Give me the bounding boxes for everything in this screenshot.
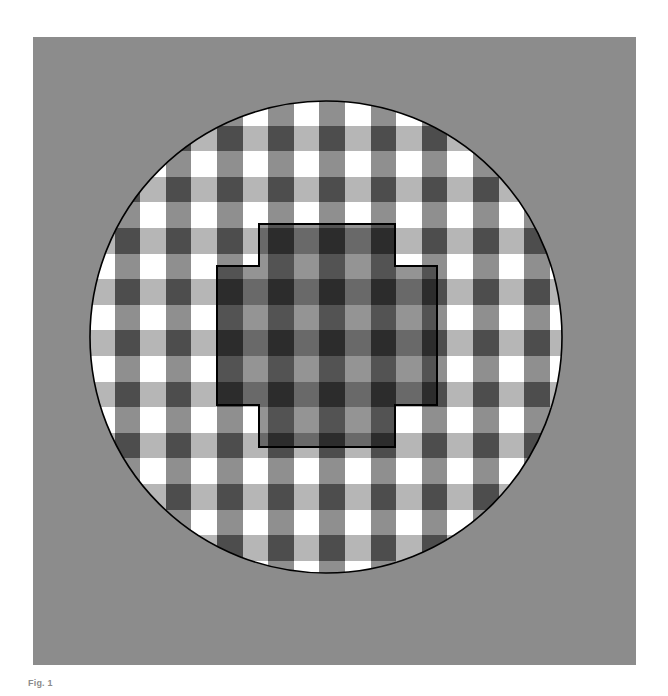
- checker-cell: [191, 202, 217, 228]
- checker-cell: [166, 330, 192, 356]
- checker-cell: [243, 177, 269, 203]
- checker-cell: [319, 458, 345, 484]
- checker-cell: [243, 535, 269, 561]
- checker-cell: [319, 100, 345, 126]
- checker-cell: [499, 228, 525, 254]
- checker-cell: [140, 279, 166, 305]
- checker-cell: [422, 433, 448, 459]
- checker-cell: [447, 433, 473, 459]
- checker-cell: [243, 126, 269, 152]
- checker-cell: [524, 279, 550, 305]
- checker-cell: [396, 151, 422, 177]
- checker-cell: [396, 484, 422, 510]
- checker-cell: [473, 177, 499, 203]
- checker-cell: [115, 330, 141, 356]
- checker-cell: [140, 382, 166, 408]
- checker-cell: [396, 202, 422, 228]
- checker-cell: [217, 177, 243, 203]
- checker-cell: [166, 407, 192, 433]
- checker-cell: [524, 305, 550, 331]
- checker-cell: [473, 382, 499, 408]
- checker-cell: [345, 535, 371, 561]
- checker-cell: [422, 177, 448, 203]
- checker-cell: [499, 202, 525, 228]
- checker-cell: [166, 254, 192, 280]
- checker-cell: [345, 510, 371, 536]
- checker-cell: [191, 254, 217, 280]
- checker-cell: [396, 228, 422, 254]
- checker-cell: [268, 177, 294, 203]
- checker-cell: [345, 151, 371, 177]
- checker-cell: [319, 510, 345, 536]
- checker-cell: [243, 484, 269, 510]
- checker-cell: [268, 510, 294, 536]
- checker-cell: [371, 484, 397, 510]
- checker-cell: [217, 458, 243, 484]
- checker-cell: [319, 151, 345, 177]
- checker-cell: [166, 228, 192, 254]
- checker-cell: [191, 510, 217, 536]
- checker-cell: [524, 254, 550, 280]
- checker-cell: [473, 202, 499, 228]
- checker-cell: [499, 382, 525, 408]
- checker-cell: [217, 151, 243, 177]
- checker-cell: [499, 407, 525, 433]
- checker-cell: [319, 126, 345, 152]
- checker-cell: [473, 228, 499, 254]
- checker-cell: [217, 484, 243, 510]
- checker-cell: [447, 484, 473, 510]
- checker-cell: [140, 330, 166, 356]
- checker-cell: [166, 356, 192, 382]
- checker-cell: [166, 382, 192, 408]
- checker-cell: [140, 356, 166, 382]
- checker-cell: [217, 407, 243, 433]
- checker-cell: [371, 510, 397, 536]
- checker-cell: [422, 484, 448, 510]
- checker-cell: [166, 177, 192, 203]
- checker-cell: [499, 254, 525, 280]
- checker-cell: [422, 151, 448, 177]
- checker-cell: [396, 433, 422, 459]
- checker-cell: [447, 330, 473, 356]
- checker-cell: [115, 407, 141, 433]
- checker-cell: [268, 126, 294, 152]
- checker-cell: [217, 126, 243, 152]
- checker-cell: [115, 254, 141, 280]
- checker-cell: [294, 458, 320, 484]
- checker-cell: [268, 458, 294, 484]
- checker-cell: [499, 305, 525, 331]
- checker-cell: [371, 535, 397, 561]
- checker-cell: [473, 330, 499, 356]
- checker-cell: [115, 305, 141, 331]
- checker-cell: [422, 228, 448, 254]
- checker-cell: [447, 177, 473, 203]
- checker-cell: [371, 151, 397, 177]
- checker-cell: [422, 407, 448, 433]
- checker-cell: [371, 177, 397, 203]
- checker-cell: [166, 305, 192, 331]
- checker-cell: [166, 279, 192, 305]
- checker-cell: [89, 330, 115, 356]
- checker-cell: [115, 228, 141, 254]
- figure-caption-number: Fig. 1: [28, 678, 53, 688]
- checker-cell: [447, 305, 473, 331]
- checker-cell: [191, 356, 217, 382]
- checker-cell: [447, 279, 473, 305]
- checker-cell: [447, 228, 473, 254]
- checker-cell: [140, 407, 166, 433]
- checker-cell: [345, 126, 371, 152]
- figure-caption: Fig. 1: [28, 678, 53, 689]
- checker-cell: [473, 305, 499, 331]
- checker-cell: [499, 330, 525, 356]
- checker-cell: [499, 279, 525, 305]
- checker-cell: [217, 510, 243, 536]
- checker-cell: [396, 407, 422, 433]
- checker-cell: [371, 126, 397, 152]
- checker-cell: [217, 228, 243, 254]
- checker-cell: [191, 382, 217, 408]
- checker-cell: [243, 510, 269, 536]
- checker-cell: [191, 458, 217, 484]
- checker-cell: [217, 202, 243, 228]
- checker-cell: [294, 484, 320, 510]
- checker-cell: [166, 433, 192, 459]
